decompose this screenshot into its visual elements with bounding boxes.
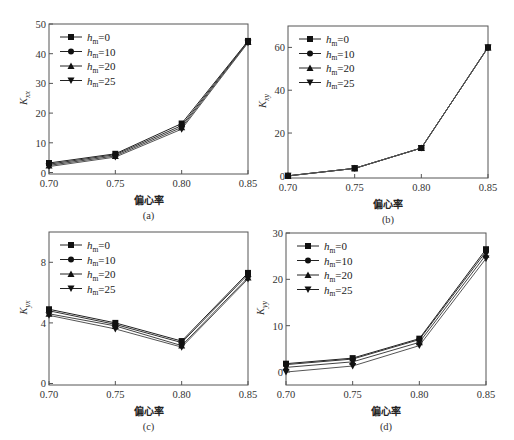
chart-panel-b: 0.700.750.800.850204060Kxy偏心率(b)hm=0hm=1… bbox=[257, 26, 497, 226]
series-line bbox=[288, 47, 488, 175]
legend-item-label: hm=25 bbox=[326, 77, 355, 92]
circle-marker bbox=[307, 51, 313, 57]
x-tick-label: 0.80 bbox=[412, 182, 430, 193]
y-tick-label: 10 bbox=[36, 138, 47, 149]
chart-panel-d: 0.700.750.800.850102030Kyy偏心率(d)hm=0hm=1… bbox=[255, 228, 495, 433]
legend: hm=0hm=10hm=20hm=25 bbox=[299, 33, 355, 91]
y-axis-label: Kxx bbox=[18, 90, 32, 106]
y-tick-label: 40 bbox=[36, 49, 47, 60]
x-tick-label: 0.70 bbox=[40, 178, 58, 189]
y-tick-label: 0 bbox=[278, 367, 283, 378]
plot-frame bbox=[49, 24, 248, 174]
x-tick-label: 0.85 bbox=[479, 182, 497, 193]
series-line bbox=[49, 279, 248, 347]
x-tick-label: 0.85 bbox=[239, 389, 257, 400]
legend-item-label: hm=25 bbox=[87, 283, 116, 298]
y-tick-label: 8 bbox=[41, 257, 46, 268]
legend-item-label: hm=10 bbox=[87, 46, 116, 61]
legend-item-label: hm=10 bbox=[326, 48, 355, 63]
chart-panel-a: 0.700.750.800.8501020304050Kxx偏心率(a)hm=0… bbox=[18, 19, 257, 222]
panel-caption: (a) bbox=[143, 210, 155, 222]
series-line bbox=[288, 47, 488, 175]
series-line bbox=[49, 42, 248, 165]
series-line bbox=[286, 258, 486, 372]
series-line bbox=[286, 249, 486, 363]
legend-item-label: hm=20 bbox=[87, 268, 116, 283]
x-axis-label: 偏心率 bbox=[134, 405, 164, 417]
chart-panel-c: 0.700.750.800.85048Kyx偏心率(c)hm=0hm=10hm=… bbox=[18, 232, 257, 433]
x-tick-label: 0.75 bbox=[345, 182, 363, 193]
series-line bbox=[49, 273, 248, 341]
x-tick-label: 0.80 bbox=[410, 389, 428, 400]
square-marker bbox=[305, 243, 311, 249]
figure-grid: 0.700.750.800.8501020304050Kxx偏心率(a)hm=0… bbox=[0, 0, 514, 440]
legend: hm=0hm=10hm=20hm=25 bbox=[297, 240, 353, 298]
x-axis-label: 偏心率 bbox=[373, 198, 403, 210]
x-tick-label: 0.70 bbox=[279, 182, 297, 193]
series-line bbox=[49, 41, 248, 163]
y-tick-label: 20 bbox=[273, 274, 284, 285]
x-tick-label: 0.70 bbox=[40, 389, 58, 400]
plot-frame bbox=[288, 26, 488, 178]
square-marker bbox=[68, 242, 74, 248]
series-line bbox=[49, 42, 248, 165]
x-tick-label: 0.75 bbox=[106, 178, 124, 189]
y-axis-label: Kxy bbox=[257, 93, 271, 109]
legend: hm=0hm=10hm=20hm=25 bbox=[60, 31, 116, 89]
x-tick-label: 0.80 bbox=[172, 178, 190, 189]
legend-item-label: hm=20 bbox=[324, 269, 353, 284]
x-axis-label: 偏心率 bbox=[371, 405, 401, 417]
legend-item-label: hm=20 bbox=[326, 62, 355, 77]
y-tick-label: 30 bbox=[273, 228, 284, 239]
x-tick-label: 0.85 bbox=[477, 389, 495, 400]
legend-item-label: hm=0 bbox=[324, 240, 348, 255]
y-tick-label: 20 bbox=[275, 128, 286, 139]
panel-caption: (c) bbox=[143, 421, 155, 433]
y-tick-label: 60 bbox=[275, 42, 286, 53]
panel-caption: (b) bbox=[382, 214, 395, 226]
panel-caption: (d) bbox=[380, 421, 393, 433]
legend-item-label: hm=25 bbox=[87, 75, 116, 90]
series-line bbox=[286, 255, 486, 368]
legend-item-label: hm=25 bbox=[324, 284, 353, 299]
legend-item-label: hm=10 bbox=[87, 254, 116, 269]
x-tick-label: 0.80 bbox=[172, 389, 190, 400]
legend-item-label: hm=0 bbox=[87, 239, 111, 254]
legend: hm=0hm=10hm=20hm=25 bbox=[60, 239, 116, 297]
y-tick-label: 0 bbox=[280, 171, 285, 182]
y-axis-label: Kyx bbox=[18, 300, 32, 316]
y-tick-label: 0 bbox=[41, 168, 46, 179]
charts-canvas: 0.700.750.800.8501020304050Kxx偏心率(a)hm=0… bbox=[0, 0, 514, 440]
circle-marker bbox=[68, 49, 74, 55]
circle-marker bbox=[305, 258, 311, 264]
x-tick-label: 0.85 bbox=[239, 178, 257, 189]
x-tick-label: 0.75 bbox=[343, 389, 361, 400]
legend-item-label: hm=10 bbox=[324, 255, 353, 270]
y-tick-label: 50 bbox=[36, 19, 47, 30]
y-tick-label: 4 bbox=[41, 318, 47, 329]
y-axis-label: Kyy bbox=[255, 300, 269, 316]
legend-item-label: hm=0 bbox=[87, 31, 111, 46]
y-tick-label: 10 bbox=[273, 321, 284, 332]
series-line bbox=[49, 43, 248, 167]
square-marker bbox=[307, 36, 313, 42]
square-marker bbox=[68, 34, 74, 40]
legend-item-label: hm=20 bbox=[87, 60, 116, 75]
circle-marker bbox=[68, 257, 74, 263]
x-tick-label: 0.70 bbox=[277, 389, 295, 400]
y-tick-label: 20 bbox=[36, 108, 47, 119]
series-line bbox=[288, 47, 488, 175]
series-line bbox=[286, 252, 486, 365]
legend-item-label: hm=0 bbox=[326, 33, 350, 48]
series-line bbox=[49, 277, 248, 345]
y-tick-label: 40 bbox=[275, 85, 286, 96]
x-axis-label: 偏心率 bbox=[134, 194, 164, 206]
y-tick-label: 0 bbox=[41, 378, 46, 389]
x-tick-label: 0.75 bbox=[106, 389, 124, 400]
y-tick-label: 30 bbox=[36, 78, 47, 89]
series-line bbox=[288, 47, 488, 175]
